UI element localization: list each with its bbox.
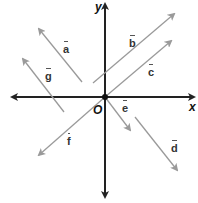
vector-c-label: c — [148, 67, 154, 78]
vector-c — [105, 41, 171, 97]
vector-b-label: b — [129, 38, 136, 49]
vector-d-label: d — [171, 143, 178, 154]
origin-point — [102, 94, 108, 100]
vector-diagram — [0, 0, 198, 203]
vector-g — [23, 59, 64, 112]
vector-g-label: g — [45, 71, 52, 82]
y-axis-label: y — [95, 1, 102, 13]
vector-f-label: f — [67, 136, 71, 147]
vector-a-label: a — [63, 44, 69, 55]
origin-label: O — [93, 104, 102, 116]
x-axis-label: x — [189, 101, 196, 113]
vector-e-label: e — [122, 103, 128, 114]
